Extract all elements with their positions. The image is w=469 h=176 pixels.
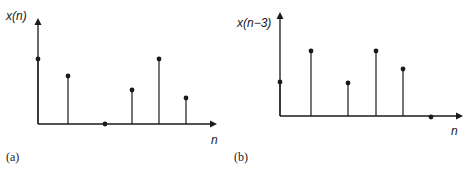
panel-a-ylabel: x(n)	[5, 9, 27, 23]
panel-b-plot	[277, 12, 464, 120]
stem-dot	[309, 49, 314, 54]
stem-dot	[429, 115, 434, 120]
signal-shift-diagram: x(n) n (a) x(n−3) n (b)	[0, 0, 469, 176]
stem-dot	[184, 96, 189, 101]
panel-b-ylabel: x(n−3)	[236, 16, 271, 30]
x-axis-arrow-icon	[210, 121, 217, 128]
panel-a-plot	[35, 18, 218, 128]
x-axis-arrow-icon	[456, 113, 463, 120]
stem-dot	[157, 57, 162, 62]
stem-dot	[130, 88, 135, 93]
panel-a-xlabel: n	[211, 133, 218, 147]
panel-b-caption: (b)	[234, 150, 248, 164]
stem-dot	[103, 122, 108, 127]
y-axis-arrow-icon	[277, 12, 284, 19]
panel-a-caption: (a)	[6, 150, 19, 164]
stem-dot	[346, 81, 351, 86]
panel-b-xlabel: n	[451, 124, 458, 138]
stem-dot	[36, 57, 41, 62]
y-axis-arrow-icon	[35, 18, 42, 25]
stem-dot	[401, 67, 406, 72]
stem-dot	[278, 80, 283, 85]
stem-dot	[374, 49, 379, 54]
stem-dot	[66, 74, 71, 79]
